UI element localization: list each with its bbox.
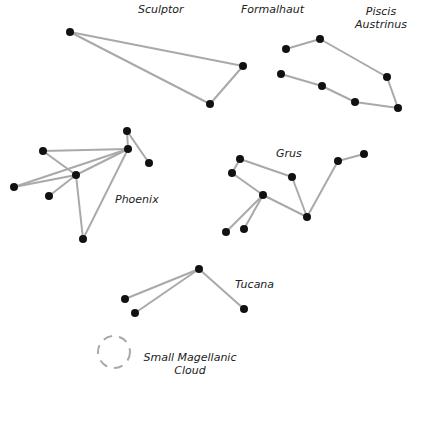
star-dot-icon: [195, 265, 203, 273]
star-dot-icon: [239, 62, 247, 70]
constellation-line: [338, 154, 364, 161]
star-dot-icon: [259, 191, 267, 199]
star-dot-icon: [45, 192, 53, 200]
star-dot-icon: [277, 70, 285, 78]
label-formalhaut: Formalhaut: [241, 3, 304, 16]
constellation-line: [232, 173, 263, 195]
star-dot-icon: [131, 309, 139, 317]
label-piscis-austrinus: Piscis Austrinus: [351, 5, 411, 31]
star-dot-icon: [123, 127, 131, 135]
constellation-piscis-austrinus: [277, 35, 402, 112]
constellation-line: [70, 32, 243, 66]
star-dot-icon: [303, 213, 311, 221]
constellation-line: [240, 159, 292, 177]
constellation-line: [281, 74, 322, 86]
star-dot-icon: [351, 98, 359, 106]
label-sculptor: Sculptor: [138, 3, 184, 16]
star-dot-icon: [124, 145, 132, 153]
star-dot-icon: [360, 150, 368, 158]
star-dot-icon: [240, 305, 248, 313]
star-dot-icon: [288, 173, 296, 181]
star-dot-icon: [334, 157, 342, 165]
label-smc-line2: Cloud: [138, 364, 242, 377]
label-tucana: Tucana: [235, 278, 274, 291]
star-dot-icon: [282, 45, 290, 53]
constellation-line: [387, 77, 398, 108]
star-dot-icon: [240, 225, 248, 233]
constellation-line: [43, 149, 128, 151]
star-dot-icon: [72, 171, 80, 179]
star-chart: Sculptor Formalhaut Piscis Austrinus Pho…: [0, 0, 435, 427]
star-dot-icon: [394, 104, 402, 112]
constellation-line: [76, 149, 128, 175]
star-dot-icon: [66, 28, 74, 36]
constellation-line: [210, 66, 243, 104]
star-dot-icon: [318, 82, 326, 90]
constellation-line: [355, 102, 398, 108]
constellation-tucana: [121, 265, 248, 317]
label-smc-line1: Small Magellanic: [138, 351, 242, 364]
constellation-line: [286, 39, 320, 49]
constellation-grus: [222, 150, 368, 236]
constellation-sculptor: [66, 28, 247, 108]
star-dot-icon: [236, 155, 244, 163]
label-phoenix: Phoenix: [115, 193, 159, 206]
star-dot-icon: [383, 73, 391, 81]
star-dot-icon: [121, 295, 129, 303]
star-dot-icon: [228, 169, 236, 177]
smc-dashed-circle-icon: [98, 336, 130, 368]
star-dot-icon: [316, 35, 324, 43]
constellation-line: [322, 86, 355, 102]
constellation-line: [76, 175, 83, 239]
star-dot-icon: [222, 228, 230, 236]
constellation-phoenix: [10, 127, 153, 243]
label-piscis-line1: Piscis: [351, 5, 411, 18]
label-smc: Small Magellanic Cloud: [138, 351, 242, 377]
label-grus: Grus: [276, 147, 302, 160]
constellation-line: [70, 32, 210, 104]
star-dot-icon: [10, 183, 18, 191]
star-dot-icon: [39, 147, 47, 155]
label-piscis-line2: Austrinus: [351, 18, 411, 31]
star-dot-icon: [79, 235, 87, 243]
constellation-line: [307, 161, 338, 217]
star-dot-icon: [206, 100, 214, 108]
constellation-line: [320, 39, 387, 77]
star-dot-icon: [145, 159, 153, 167]
